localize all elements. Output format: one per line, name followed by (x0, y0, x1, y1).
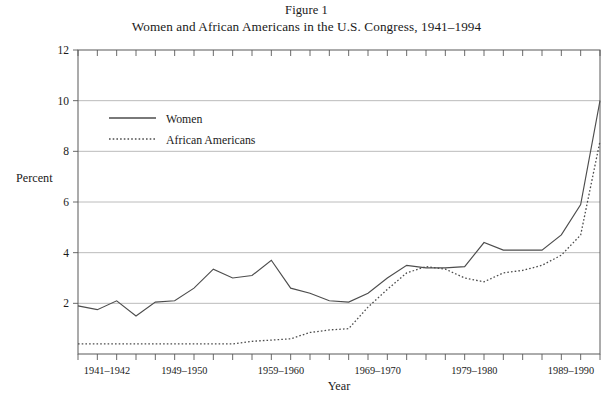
y-tick-label-6: 6 (63, 196, 69, 208)
y-tick-label-4: 4 (63, 247, 69, 259)
series-line-african-americans (78, 141, 600, 344)
chart-legend: WomenAfrican Americans (109, 112, 256, 147)
x-tick-label-3: 1969–1970 (354, 365, 400, 376)
y-tick-label-10: 10 (58, 95, 70, 107)
series-layer (78, 101, 600, 344)
legend-label-african-americans: African Americans (166, 133, 256, 147)
x-tick-label-group: 1941–19421949–19501959–19601969–19701979… (84, 365, 594, 376)
page-bleed-text (0, 396, 613, 407)
tick-group (73, 50, 600, 360)
series-line-women (78, 101, 600, 316)
x-tick-label-2: 1959–1960 (258, 365, 304, 376)
y-tick-label-2: 2 (63, 297, 69, 309)
x-tick-label-5: 1989–1990 (548, 365, 594, 376)
y-tick-label-12: 12 (58, 44, 70, 56)
x-tick-label-4: 1979–1980 (451, 365, 497, 376)
legend-label-women: Women (166, 112, 203, 126)
figure-container: Figure 1 Women and African Americans in … (0, 0, 613, 407)
x-tick-label-0: 1941–1942 (84, 365, 130, 376)
x-tick-label-1: 1949–1950 (161, 365, 207, 376)
y-tick-label-group: 12108642 (58, 44, 70, 309)
x-axis-title: Year (328, 379, 350, 393)
gridline-group (78, 101, 600, 304)
y-axis-title: Percent (16, 171, 53, 185)
y-tick-label-8: 8 (63, 145, 69, 157)
line-chart: 12108642 1941–19421949–19501959–19601969… (0, 0, 613, 407)
